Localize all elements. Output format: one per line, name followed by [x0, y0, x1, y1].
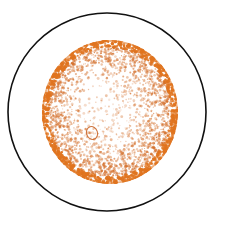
figure-root: Stippled orange spherical specimen in ci… [0, 0, 234, 230]
stipple-sphere-illustration [0, 0, 234, 230]
